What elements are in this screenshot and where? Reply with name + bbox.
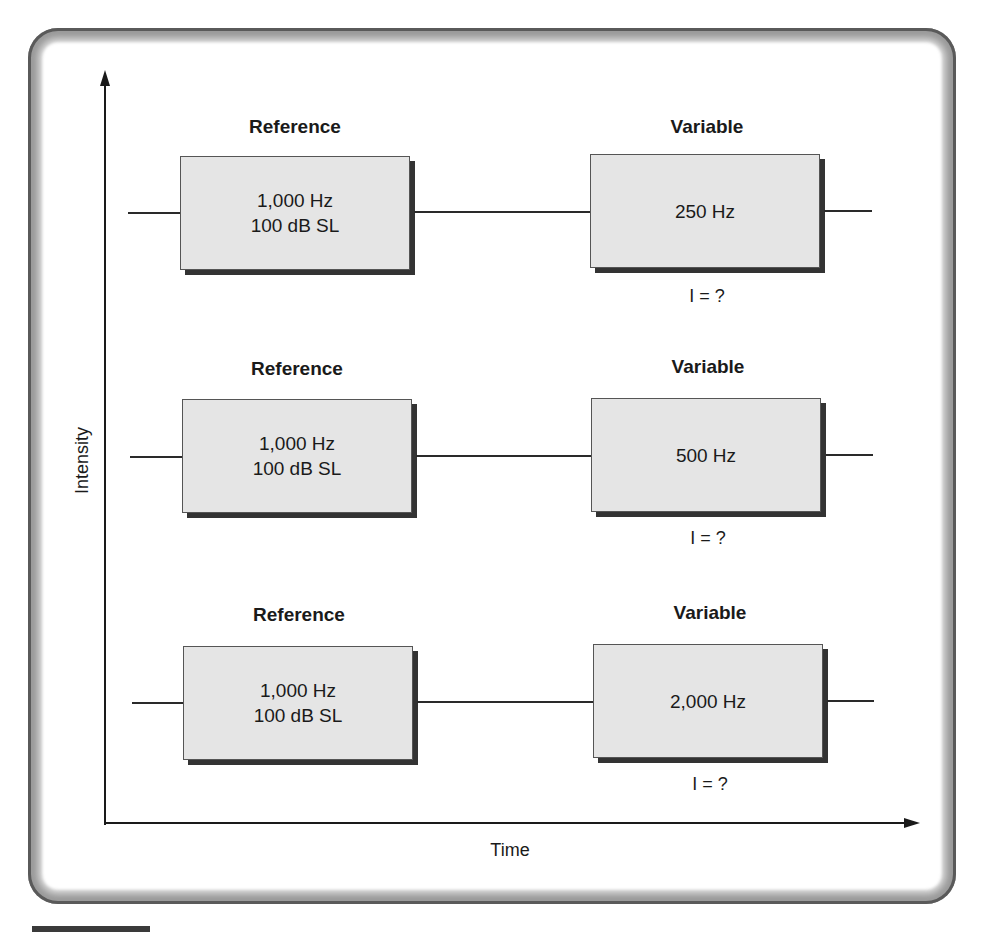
connector-line: [130, 456, 182, 458]
variable-intensity-unknown: I = ?: [595, 774, 825, 795]
connector-line: [824, 210, 872, 212]
connector-line: [132, 702, 183, 704]
reference-frequency: 1,000 Hz: [259, 431, 335, 456]
arrow-right-icon: [904, 818, 920, 828]
connector-line: [128, 212, 180, 214]
reference-frequency: 1,000 Hz: [257, 188, 333, 213]
comparison-row-1: Reference 1,000 Hz 100 dB SL Variable 25…: [0, 110, 990, 310]
variable-heading: Variable: [592, 116, 822, 138]
reference-heading: Reference: [182, 358, 412, 380]
x-axis: [104, 822, 910, 824]
connector-line: [827, 700, 874, 702]
footer-rule: [32, 926, 150, 932]
arrow-up-icon: [100, 70, 110, 86]
variable-intensity-unknown: I = ?: [593, 528, 823, 549]
reference-heading: Reference: [184, 604, 414, 626]
reference-tone-box: 1,000 Hz 100 dB SL: [183, 646, 413, 760]
x-axis-label: Time: [470, 840, 550, 861]
variable-tone-box: 2,000 Hz: [593, 644, 823, 758]
variable-frequency: 2,000 Hz: [670, 689, 746, 714]
reference-level: 100 dB SL: [253, 456, 342, 481]
reference-frequency: 1,000 Hz: [260, 678, 336, 703]
connector-line: [414, 211, 590, 213]
reference-level: 100 dB SL: [251, 213, 340, 238]
variable-heading: Variable: [593, 356, 823, 378]
variable-frequency: 250 Hz: [675, 199, 735, 224]
variable-tone-box: 500 Hz: [591, 398, 821, 512]
variable-frequency: 500 Hz: [676, 443, 736, 468]
reference-tone-box: 1,000 Hz 100 dB SL: [182, 399, 412, 513]
variable-heading: Variable: [595, 602, 825, 624]
variable-intensity-unknown: I = ?: [592, 286, 822, 307]
comparison-row-2: Reference 1,000 Hz 100 dB SL Variable 50…: [0, 354, 990, 554]
reference-tone-box: 1,000 Hz 100 dB SL: [180, 156, 410, 270]
variable-tone-box: 250 Hz: [590, 154, 820, 268]
reference-level: 100 dB SL: [254, 703, 343, 728]
connector-line: [417, 701, 593, 703]
connector-line: [826, 454, 873, 456]
reference-heading: Reference: [180, 116, 410, 138]
connector-line: [416, 455, 591, 457]
comparison-row-3: Reference 1,000 Hz 100 dB SL Variable 2,…: [0, 600, 990, 800]
